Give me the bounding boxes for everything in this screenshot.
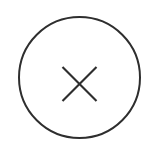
circle-outline-icon <box>19 17 140 138</box>
screen-canvas <box>0 0 149 152</box>
close-x-icon <box>62 67 96 101</box>
close-button[interactable] <box>18 16 141 139</box>
close-button-graphic <box>18 16 141 139</box>
